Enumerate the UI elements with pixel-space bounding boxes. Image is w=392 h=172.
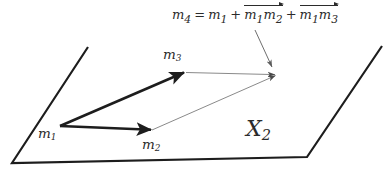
- label-m2: m2: [142, 138, 160, 153]
- equation-vector-m1m2: m1m2: [244, 6, 282, 25]
- vector-m1m3-b: m3: [319, 7, 338, 22]
- equation-vector-m1m3: m1m3: [300, 6, 338, 25]
- vector-m1m3-a: m1: [300, 7, 319, 22]
- vector-m1m2-a: m1: [244, 7, 263, 22]
- equation-m4: m4 = m1 + m1m2 + m1m3: [172, 6, 338, 25]
- plane-outline: [12, 46, 382, 163]
- equation-term-m1: m1: [208, 8, 227, 25]
- vector-m1m2-b: m2: [263, 7, 282, 22]
- vector-arrowhead-icon: [334, 2, 339, 6]
- label-plane-x2: X2: [246, 118, 271, 142]
- vector-parallelogram-figure: m4 = m1 + m1m2 + m1m3 m1 m2 m3 X2: [0, 0, 392, 172]
- bold-vector-m1-to-m2: [60, 126, 151, 130]
- equation-plus-1: +: [227, 8, 244, 21]
- diagram-canvas: [0, 0, 392, 172]
- vector-arrowhead-icon: [279, 2, 284, 6]
- vector-overbar: [244, 5, 282, 6]
- bold-vector-m1-to-m3: [60, 73, 184, 127]
- equation-plus-2: +: [283, 8, 300, 21]
- thin-vector-m3-to-m4: [186, 73, 275, 75]
- pointer-arrow-to-m4: [255, 30, 272, 67]
- equation-lhs: m4: [172, 8, 191, 25]
- vector-overbar: [300, 5, 338, 6]
- label-m3: m3: [163, 48, 181, 63]
- label-m1: m1: [38, 127, 56, 142]
- equation-equals: =: [191, 8, 208, 21]
